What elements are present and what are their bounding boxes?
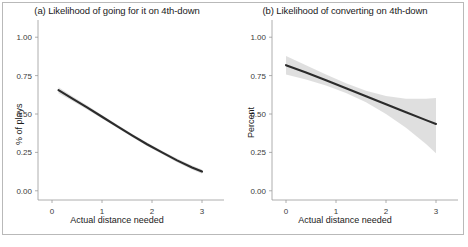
y-tick-label: 0.00 [250, 187, 266, 196]
y-tick-label: 1.00 [16, 33, 32, 42]
x-tick-label: 0 [50, 207, 55, 216]
fitted-line [286, 65, 436, 124]
y-tick-label: 0.50 [16, 110, 32, 119]
y-tick-label: 0.75 [16, 72, 32, 81]
x-tick-label: 3 [434, 207, 439, 216]
y-tick-label: 0.25 [16, 148, 32, 157]
x-tick-label: 1 [100, 207, 105, 216]
fitted-line [59, 90, 203, 171]
y-tick-label: 1.00 [250, 33, 266, 42]
y-tick-label: 0.25 [250, 148, 266, 157]
panel-a: (a) Likelihood of going for it on 4th-do… [0, 0, 234, 233]
y-tick-label: 0.75 [250, 72, 266, 81]
x-tick-label: 3 [200, 207, 205, 216]
x-tick-label: 0 [284, 207, 289, 216]
panel-a-plot: 0.000.250.500.751.000123 [0, 0, 234, 233]
x-tick-label: 1 [334, 207, 339, 216]
y-tick-label: 0.50 [250, 110, 266, 119]
y-tick-label: 0.00 [16, 187, 32, 196]
panel-b-plot: 0.000.250.500.751.000123 [228, 0, 462, 233]
confidence-band [59, 87, 203, 174]
x-tick-label: 2 [150, 207, 155, 216]
panel-b: (b) Likelihood of converting on 4th-down… [228, 0, 462, 233]
confidence-band [286, 56, 436, 153]
x-tick-label: 2 [384, 207, 389, 216]
figure-container: (a) Likelihood of going for it on 4th-do… [0, 0, 468, 247]
